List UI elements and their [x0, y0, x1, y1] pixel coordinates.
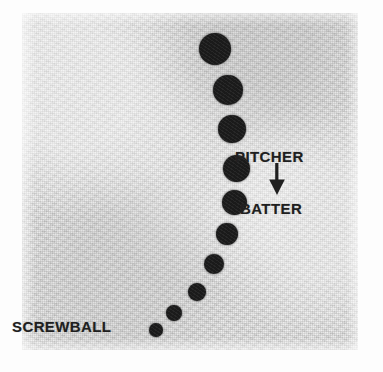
photograph-plate — [22, 13, 358, 350]
ball-marker — [188, 283, 206, 301]
exposure-mottle-layer — [22, 13, 358, 350]
ball-marker — [213, 75, 243, 105]
ball-marker — [204, 254, 224, 274]
screwball-label: SCREWBALL — [12, 318, 111, 335]
ball-marker — [149, 323, 163, 337]
batter-label: BATTER — [240, 200, 302, 217]
arrow-down-icon — [266, 163, 288, 195]
ball-marker — [218, 115, 246, 143]
film-grain-layer — [22, 13, 358, 350]
ball-marker — [216, 223, 238, 245]
ball-marker — [166, 305, 182, 321]
plate-vignette — [22, 13, 358, 350]
figure-root: SCREWBALL PITCHER BATTER — [0, 0, 383, 372]
halftone-texture-layer — [22, 13, 358, 350]
ball-marker — [199, 33, 231, 65]
